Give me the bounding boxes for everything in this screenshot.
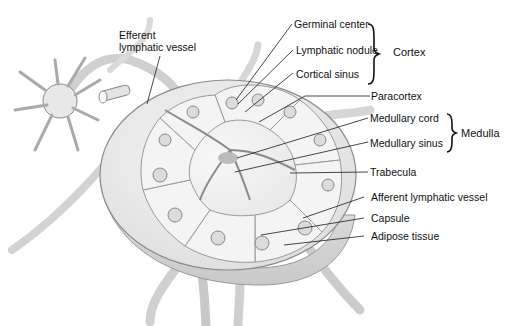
label-lymphatic-nodule: Lymphatic nodule — [296, 44, 378, 56]
group-label-cortex: Cortex — [393, 46, 425, 58]
label-efferent-line1: Efferent — [119, 29, 156, 41]
efferent-vessel — [99, 84, 131, 103]
lymph-node-illustration — [0, 0, 506, 326]
label-cortical-sinus: Cortical sinus — [296, 68, 359, 80]
label-paracortex: Paracortex — [371, 90, 422, 102]
label-afferent-vessel: Afferent lymphatic vessel — [371, 191, 488, 203]
label-medullary-sinus: Medullary sinus — [370, 137, 443, 149]
lymph-node-diagram: Efferent lymphatic vessel Germinal cente… — [0, 0, 506, 326]
label-adipose-tissue: Adipose tissue — [371, 230, 439, 242]
label-germinal-center: Germinal center — [294, 18, 369, 30]
label-medullary-cord: Medullary cord — [370, 112, 439, 124]
label-trabecula: Trabecula — [370, 166, 416, 178]
group-label-medulla: Medulla — [461, 127, 500, 139]
hilum — [218, 152, 238, 164]
medulla-brace — [447, 114, 456, 152]
label-efferent-line2: lymphatic vessel — [119, 41, 196, 53]
label-capsule: Capsule — [371, 212, 410, 224]
